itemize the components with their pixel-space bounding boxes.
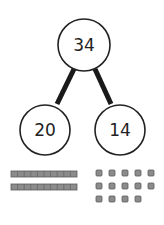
ones-cube — [109, 183, 115, 189]
ones-cube — [135, 183, 141, 189]
part-node-right: 14 — [95, 105, 145, 155]
ones-cube — [109, 170, 115, 176]
part-value-left: 20 — [34, 120, 56, 140]
tens-rod — [11, 171, 77, 177]
ones-cubes — [96, 170, 154, 202]
ones-cube — [148, 183, 154, 189]
part-whole-diagram: 34 20 14 — [0, 0, 164, 225]
tens-rod — [11, 184, 77, 190]
ones-cube — [122, 196, 128, 202]
ones-cube — [122, 183, 128, 189]
ones-cube — [135, 196, 141, 202]
part-node-left: 20 — [20, 105, 70, 155]
connector-right — [95, 69, 111, 104]
whole-value: 34 — [73, 35, 95, 55]
ones-cube — [96, 196, 102, 202]
part-value-right: 14 — [109, 120, 131, 140]
ones-cube — [122, 170, 128, 176]
connector-left — [57, 69, 74, 104]
ones-cube — [148, 170, 154, 176]
tens-rods — [11, 171, 77, 190]
whole-node: 34 — [58, 19, 110, 71]
ones-cube — [109, 196, 115, 202]
ones-cube — [96, 183, 102, 189]
ones-cube — [96, 170, 102, 176]
ones-cube — [135, 170, 141, 176]
